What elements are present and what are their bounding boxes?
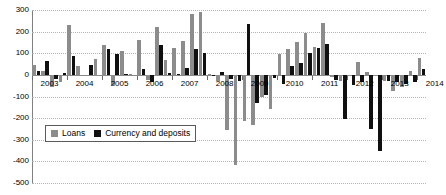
x-tick-label-2012: 2012 [354,79,376,88]
bar-loans-2013Q4 [409,71,413,75]
legend-label: Currency and deposits [105,128,190,138]
y-tick-label: 300 [1,6,29,14]
bar-loans-2007Q1 [172,48,176,75]
x-tick-mark [137,76,138,80]
plot-area [32,10,426,183]
x-tick-label-2004: 2004 [74,79,96,88]
bar-loans-2014Q1 [418,58,422,75]
y-tick-label: 200 [1,28,29,36]
y-tick-label: 100 [1,49,29,57]
x-tick-label-2005: 2005 [109,79,131,88]
bar-currency-and-deposits-2010Q4 [308,53,312,75]
x-tick-label-2010: 2010 [284,79,306,88]
bar-currency-and-deposits-2011Q2 [325,44,329,75]
gridline [32,161,426,162]
gridline [32,97,426,98]
bar-loans-2003Q2 [41,71,45,75]
x-tick-mark [67,76,68,80]
bar-currency-and-deposits-2003Q1 [37,71,41,75]
bar-loans-2010Q4 [304,33,308,75]
y-tick-label: 0 [1,71,29,79]
bar-loans-2005Q4 [129,74,133,75]
bar-currency-and-deposits-2010Q3 [299,63,303,75]
bar-loans-2010Q1 [278,54,282,75]
x-tick-label-2011: 2011 [319,79,341,88]
bar-loans-2012Q3 [365,72,369,75]
bar-currency-and-deposits-2008Q2 [220,72,224,75]
bar-loans-2008Q1 [208,74,212,75]
bar-currency-and-deposits-2014Q1 [422,69,426,74]
bar-loans-2007Q2 [181,41,185,75]
x-tick-mark [347,76,348,80]
bar-currency-and-deposits-2007Q2 [185,68,189,74]
bar-currency-and-deposits-2011Q1 [317,48,321,75]
gridline [32,118,426,119]
bar-loans-2006Q4 [164,60,168,75]
x-tick-label-2006: 2006 [144,79,166,88]
bar-loans-2004Q1 [67,25,71,75]
legend-label: Loans [62,128,85,138]
bar-loans-2012Q2 [356,62,360,75]
y-tick-label: -300 [1,136,29,144]
x-axis-tick-labels: 2003200420052006200720082009201020112012… [32,76,426,88]
legend-swatch-icon [94,130,101,137]
bar-currency-and-deposits-2003Q4 [63,73,67,75]
x-tick-label-2003: 2003 [39,79,61,88]
bar-currency-and-deposits-2006Q4 [168,73,172,75]
x-tick-mark [277,76,278,80]
legend-entry-currency-and-deposits: Currency and deposits [94,128,190,138]
y-tick-label: -100 [1,93,29,101]
x-tick-label-2014: 2014 [424,79,446,88]
bar-currency-and-deposits-2004Q1 [72,56,76,74]
bar-loans-2011Q2 [321,23,325,75]
x-tick-label-2008: 2008 [214,79,236,88]
bar-loans-2010Q3 [295,42,299,74]
legend-entry-loans: Loans [51,128,85,138]
gridline [32,183,426,184]
bar-currency-and-deposits-2005Q1 [107,49,111,75]
bar-loans-2004Q2 [76,66,80,75]
bar-currency-and-deposits-2006Q3 [159,45,163,75]
bar-loans-2008Q4 [234,75,238,165]
bar-loans-2011Q1 [313,47,317,75]
gridline [32,10,426,11]
bar-currency-and-deposits-2005Q2 [115,54,119,75]
bar-currency-and-deposits-2009Q1 [247,24,251,75]
bar-currency-and-deposits-2007Q1 [177,74,181,75]
legend-swatch-icon [51,130,58,137]
bar-loans-2004Q4 [94,59,98,75]
bar-loans-2003Q1 [32,65,36,75]
x-tick-label-2007: 2007 [179,79,201,88]
x-tick-label-2009: 2009 [249,79,271,88]
bar-currency-and-deposits-2010Q2 [290,66,294,75]
bar-loans-2006Q1 [137,40,141,75]
bar-loans-2010Q2 [286,49,290,75]
x-tick-mark [242,76,243,80]
x-tick-mark [312,76,313,80]
x-tick-mark [102,76,103,80]
bar-loans-2007Q3 [190,14,194,75]
bar-currency-and-deposits-2007Q4 [203,53,207,75]
x-tick-mark [32,76,33,80]
x-tick-mark [207,76,208,80]
y-tick-label: -500 [1,179,29,187]
bar-currency-and-deposits-2004Q3 [89,65,93,75]
bar-currency-and-deposits-2006Q1 [142,69,146,74]
x-tick-mark [417,76,418,80]
bar-currency-and-deposits-2007Q3 [194,49,198,75]
bar-currency-and-deposits-2005Q3 [124,74,128,75]
chart-legend: LoansCurrency and deposits [45,125,196,142]
bar-loans-2005Q3 [120,51,124,75]
y-axis-tick-labels: 3002001000-100-200-300-400-500 [0,10,29,183]
bar-currency-and-deposits-2003Q2 [45,61,49,75]
gridline [32,53,426,54]
y-tick-label: -400 [1,157,29,165]
x-tick-mark [382,76,383,80]
y-tick-label: -200 [1,114,29,122]
bar-loans-2005Q1 [102,45,106,75]
gridline [32,32,426,33]
bar-loans-2006Q3 [155,27,159,75]
x-tick-label-2013: 2013 [389,79,411,88]
x-tick-mark [172,76,173,80]
